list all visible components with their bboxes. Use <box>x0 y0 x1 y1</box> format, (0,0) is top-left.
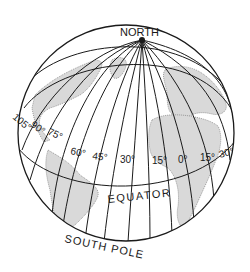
meridian-label-15-west: 15° <box>152 155 167 166</box>
meridian-label-15-east: 15° <box>200 152 215 163</box>
equator-label: EQUATOR <box>107 186 172 205</box>
globe-diagram: NORTH 105° 90° 75° 60° 45° 30° 15° 0° 15… <box>0 0 250 272</box>
meridian-label-45: 45° <box>92 150 109 163</box>
meridian-label-30: 30° <box>120 154 135 165</box>
meridian-label-105: 105° <box>11 111 34 133</box>
south-america-landmass <box>46 150 98 231</box>
meridian-label-30-east: 30° <box>218 145 235 160</box>
north-label: NORTH <box>120 26 159 38</box>
meridian-label-90: 90° <box>29 119 48 137</box>
meridian-label-60: 60° <box>70 145 87 159</box>
landmasses <box>32 58 226 231</box>
meridian-label-0: 0° <box>178 154 188 165</box>
